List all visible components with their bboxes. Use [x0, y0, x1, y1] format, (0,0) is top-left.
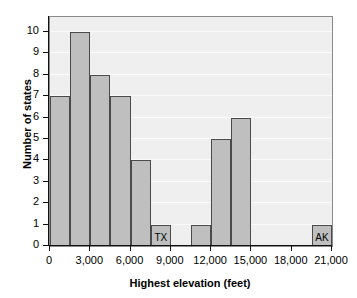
- y-axis-tick: [43, 159, 48, 160]
- y-axis-tick: [43, 95, 48, 96]
- y-axis-tick: [43, 117, 48, 118]
- y-axis-tick-label: 0: [0, 239, 39, 250]
- x-axis-tick: [250, 246, 251, 251]
- plot-area: TXAK: [49, 16, 333, 247]
- histogram-bar: [191, 225, 211, 246]
- y-axis-line: [48, 16, 49, 246]
- x-axis-tick: [170, 246, 171, 251]
- y-axis-tick-label: 4: [0, 153, 39, 164]
- x-axis-line: [48, 245, 332, 246]
- y-axis-tick: [43, 74, 48, 75]
- histogram-bar: [131, 160, 151, 246]
- y-axis-tick-label: 9: [0, 46, 39, 57]
- histogram-bar: [231, 118, 251, 246]
- y-axis-tick-label: 10: [0, 25, 39, 36]
- y-axis-tick: [43, 202, 48, 203]
- y-axis-title: Number of states: [21, 34, 33, 214]
- y-axis-tick: [43, 181, 48, 182]
- histogram-bar: [70, 32, 90, 246]
- x-axis-tick-label: 21,000: [301, 254, 357, 266]
- histogram-bar: [110, 96, 130, 246]
- x-axis-title: Highest elevation (feet): [49, 277, 331, 289]
- histogram-bar: AK: [312, 225, 332, 246]
- histogram-bar: [50, 96, 70, 246]
- y-axis-tick-label: 7: [0, 89, 39, 100]
- x-axis-tick: [210, 246, 211, 251]
- x-axis-tick: [49, 246, 50, 251]
- y-axis-tick-label: 3: [0, 175, 39, 186]
- y-axis-tick-label: 8: [0, 68, 39, 79]
- histogram-chart: Number of states TXAK 012345678910 03,00…: [0, 0, 357, 298]
- x-axis-tick: [130, 246, 131, 251]
- gridline: [50, 31, 332, 32]
- bar-annotation-label: AK: [313, 232, 331, 243]
- y-axis-tick-label: 1: [0, 218, 39, 229]
- y-axis-tick-label: 2: [0, 196, 39, 207]
- y-axis-tick: [43, 31, 48, 32]
- y-axis-tick-label: 5: [0, 132, 39, 143]
- x-axis-tick: [291, 246, 292, 251]
- bar-annotation-label: TX: [152, 232, 170, 243]
- histogram-bar: [211, 139, 231, 246]
- histogram-bar: TX: [151, 225, 171, 246]
- x-axis-tick: [331, 246, 332, 251]
- y-axis-tick: [43, 224, 48, 225]
- y-axis-tick: [43, 245, 48, 246]
- y-axis-tick: [43, 52, 48, 53]
- histogram-bar: [90, 75, 110, 246]
- x-axis-tick: [89, 246, 90, 251]
- gridline: [50, 52, 332, 53]
- y-axis-tick-label: 6: [0, 111, 39, 122]
- y-axis-tick: [43, 138, 48, 139]
